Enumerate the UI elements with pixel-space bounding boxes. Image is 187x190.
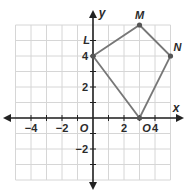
vertex-point-l bbox=[90, 53, 95, 58]
origin-label: O bbox=[80, 122, 89, 134]
x-tick-label: −2 bbox=[56, 122, 69, 134]
vertex-point-o bbox=[137, 115, 142, 120]
x-axis-right-arrow-icon bbox=[176, 114, 184, 122]
vertex-point-m bbox=[137, 22, 142, 27]
vertex-label-o: O bbox=[142, 122, 151, 134]
x-tick-label: 4 bbox=[152, 122, 159, 134]
x-tick-label: −4 bbox=[25, 122, 38, 134]
y-tick-label: 4 bbox=[82, 50, 89, 62]
y-axis-down-arrow-icon bbox=[89, 182, 97, 190]
axes bbox=[3, 10, 184, 190]
x-axis-label: x bbox=[172, 101, 181, 115]
vertex-label-m: M bbox=[135, 9, 145, 21]
y-axis-up-arrow-icon bbox=[89, 10, 97, 18]
x-tick-label: 2 bbox=[121, 122, 127, 134]
vertex-point-n bbox=[168, 53, 173, 58]
y-tick-label: 2 bbox=[82, 81, 88, 93]
y-tick-label: −2 bbox=[75, 143, 88, 155]
x-axis-left-arrow-icon bbox=[3, 114, 11, 122]
vertex-label-n: N bbox=[174, 41, 183, 53]
coordinate-plane: −4−22442−2OxyLMNO bbox=[0, 0, 187, 190]
y-axis-label: y bbox=[98, 6, 107, 20]
vertex-label-l: L bbox=[83, 34, 90, 46]
